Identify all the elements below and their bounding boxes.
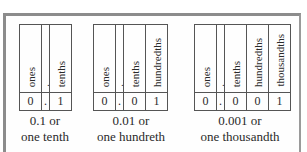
header-row: ones . tenths hundredths xyxy=(94,25,168,93)
digit-decimal-point: . xyxy=(217,93,225,111)
caption-tenth: 0.1 or one tenth xyxy=(8,113,82,145)
digit-ones: 0 xyxy=(94,93,116,111)
digit-tenths: 0 xyxy=(124,93,146,111)
header-decimal-point: . xyxy=(217,25,225,93)
header-decimal-point: . xyxy=(116,25,124,93)
caption-line-1: 0.01 or xyxy=(82,113,180,129)
header-ones: ones xyxy=(20,25,42,93)
digit-hundredths: 0 xyxy=(247,93,269,111)
header-thousandths: thousandths xyxy=(269,25,291,93)
digit-thousandths: 1 xyxy=(269,93,291,111)
caption-hundredth: 0.01 or one hundreth xyxy=(82,113,180,145)
digit-row: 0 . 0 0 1 xyxy=(195,93,291,111)
header-hundredths: hundredths xyxy=(247,25,269,93)
caption-thousandth: 0.001 or one thousandth xyxy=(184,113,296,145)
place-value-table-thousandths: ones . tenths hundredths thousandths 0 .… xyxy=(194,24,291,111)
digit-row: 0 . 0 1 xyxy=(94,93,168,111)
digit-decimal-point: . xyxy=(116,93,124,111)
header-tenths: tenths xyxy=(124,25,146,93)
caption-line-1: 0.1 or xyxy=(8,113,82,129)
header-ones: ones xyxy=(94,25,116,93)
digit-tenths: 1 xyxy=(50,93,72,111)
header-ones: ones xyxy=(195,25,217,93)
header-row: ones . tenths hundredths thousandths xyxy=(195,25,291,93)
caption-line-1: 0.001 or xyxy=(184,113,296,129)
header-row: ones . tenths xyxy=(20,25,72,93)
place-value-table-tenths: ones . tenths 0 . 1 xyxy=(19,24,72,111)
digit-ones: 0 xyxy=(20,93,42,111)
digit-tenths: 0 xyxy=(225,93,247,111)
caption-line-2: one tenth xyxy=(8,129,82,145)
header-hundredths: hundredths xyxy=(146,25,168,93)
digit-decimal-point: . xyxy=(42,93,50,111)
digit-hundredths: 1 xyxy=(146,93,168,111)
digit-row: 0 . 1 xyxy=(20,93,72,111)
digit-ones: 0 xyxy=(195,93,217,111)
place-value-table-hundredths: ones . tenths hundredths 0 . 0 1 xyxy=(93,24,168,111)
header-tenths: tenths xyxy=(50,25,72,93)
header-decimal-point: . xyxy=(42,25,50,93)
caption-line-2: one thousandth xyxy=(184,129,296,145)
header-tenths: tenths xyxy=(225,25,247,93)
caption-line-2: one hundreth xyxy=(82,129,180,145)
